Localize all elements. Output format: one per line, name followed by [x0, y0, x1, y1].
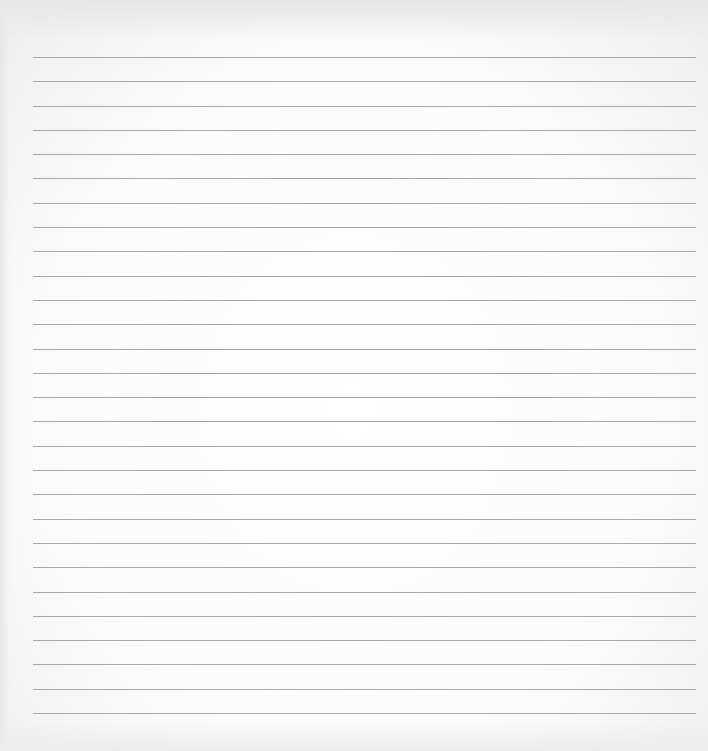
- ruled-line: [33, 300, 696, 301]
- ruled-line: [33, 689, 696, 690]
- ruled-line: [33, 713, 696, 714]
- ruled-line: [33, 106, 696, 107]
- ruled-line: [33, 154, 696, 155]
- ruled-line: [33, 616, 696, 617]
- ruled-line: [33, 81, 696, 82]
- ruled-line: [33, 203, 696, 204]
- ruled-line: [33, 276, 696, 277]
- ruled-line: [33, 519, 696, 520]
- lined-paper-sheet: [0, 0, 708, 751]
- ruled-line: [33, 470, 696, 471]
- ruled-line: [33, 421, 696, 422]
- ruled-line: [33, 130, 696, 131]
- ruled-line: [33, 567, 696, 568]
- ruled-line: [33, 494, 696, 495]
- ruled-line: [33, 251, 696, 252]
- bottom-shadow: [0, 721, 708, 751]
- ruled-line: [33, 397, 696, 398]
- ruled-line: [33, 592, 696, 593]
- ruled-line: [33, 178, 696, 179]
- ruled-line: [33, 349, 696, 350]
- ruled-line: [33, 543, 696, 544]
- ruled-line: [33, 57, 696, 58]
- top-shadow: [0, 0, 708, 40]
- left-shadow: [0, 0, 10, 751]
- ruled-line: [33, 227, 696, 228]
- ruled-line: [33, 373, 696, 374]
- ruled-line: [33, 640, 696, 641]
- ruled-line: [33, 446, 696, 447]
- ruled-line: [33, 324, 696, 325]
- ruled-line: [33, 664, 696, 665]
